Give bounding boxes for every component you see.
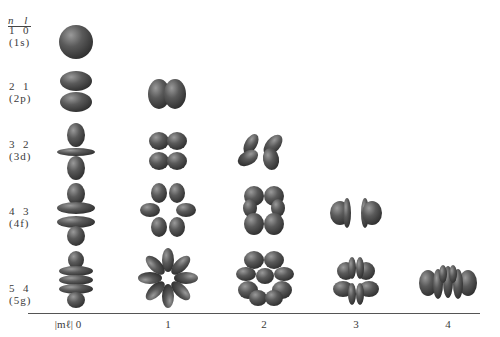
orbital-4f-m1 [140, 183, 196, 237]
row-label-2p: 2 1 (2p) [9, 80, 31, 104]
row-nl: 1 0 [9, 24, 30, 36]
row-nl: 2 1 [9, 80, 31, 92]
orbital-2p-m0 [56, 70, 96, 114]
row-orbital-name: (4f) [9, 217, 30, 229]
row-label-1s: 1 0 (1s) [9, 24, 30, 48]
orbital-5g-m0 [54, 250, 98, 310]
row-nl: 5 4 [9, 282, 31, 294]
orbital-4f-m0 [54, 182, 98, 248]
orbital-5g-m2 [236, 248, 294, 308]
orbital-4f-m2 [241, 184, 287, 238]
row-orbital-name: (2p) [9, 92, 31, 104]
orbital-3d-m1 [147, 130, 189, 172]
axis-tick-2: 2 [261, 318, 267, 330]
ml-axis-line [28, 313, 480, 314]
axis-tick-3: 3 [353, 318, 359, 330]
row-orbital-name: (3d) [9, 150, 31, 162]
orbital-3d-m2 [237, 130, 291, 172]
row-nl: 4 3 [9, 205, 30, 217]
orbital-5g-m4 [417, 262, 479, 302]
orbital-2p-m1 [146, 76, 190, 112]
orbital-5g-m1 [138, 248, 198, 308]
row-label-5g: 5 4 (5g) [9, 282, 31, 306]
row-label-3d: 3 2 (3d) [9, 138, 31, 162]
orbital-5g-m3 [330, 256, 382, 306]
orbital-1s-m0 [56, 22, 96, 62]
orbital-3d-m0 [56, 122, 96, 182]
row-nl: 3 2 [9, 138, 31, 150]
row-label-4f: 4 3 (4f) [9, 205, 30, 229]
axis-label-ml: |mℓ| 0 [55, 318, 81, 330]
orbital-4f-m3 [327, 196, 385, 230]
row-orbital-name: (1s) [9, 36, 30, 48]
axis-tick-1: 1 [165, 318, 171, 330]
axis-tick-4: 4 [445, 318, 451, 330]
row-orbital-name: (5g) [9, 294, 31, 306]
